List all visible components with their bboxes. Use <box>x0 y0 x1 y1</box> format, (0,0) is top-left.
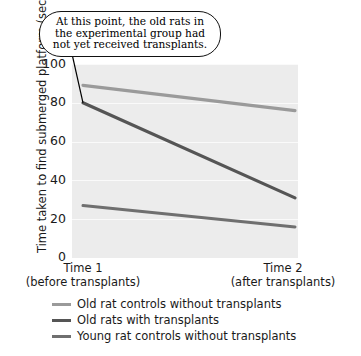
legend-swatch-icon-young-rat-controls <box>52 335 71 338</box>
callout-annotation: At this point, the old rats in the exper… <box>39 11 221 57</box>
series-line-old-rats-transplants <box>83 103 295 198</box>
x-axis-label-time-2-main: Time 2 <box>263 261 302 275</box>
x-axis-label-time-1-main: Time 1 <box>63 261 102 275</box>
series-line-young-rat-controls <box>83 206 295 227</box>
x-axis-label-time-2-sub: (after transplants) <box>208 276 358 290</box>
chart-figure: Time taken to find submerged platform (s… <box>0 0 361 356</box>
legend-label-young-rat-controls: Young rat controls without transplants <box>77 330 296 342</box>
chart-legend: Old rat controls without transplants Old… <box>52 297 352 345</box>
legend-label-old-rats-transplants: Old rats with transplants <box>77 314 219 326</box>
series-line-old-rat-controls <box>83 85 295 110</box>
x-axis-label-time-1: Time 1 (before transplants) <box>8 262 158 289</box>
legend-item-old-rats-transplants: Old rats with transplants <box>52 313 352 327</box>
legend-label-old-rat-controls: Old rat controls without transplants <box>77 298 281 310</box>
legend-swatch-icon-old-rat-controls <box>52 303 71 306</box>
x-axis-label-time-2: Time 2 (after transplants) <box>208 262 358 289</box>
x-axis-label-time-1-sub: (before transplants) <box>8 276 158 290</box>
legend-swatch-icon-old-rats-transplants <box>52 319 71 322</box>
legend-item-young-rat-controls: Young rat controls without transplants <box>52 329 352 343</box>
legend-item-old-rat-controls: Old rat controls without transplants <box>52 297 352 311</box>
